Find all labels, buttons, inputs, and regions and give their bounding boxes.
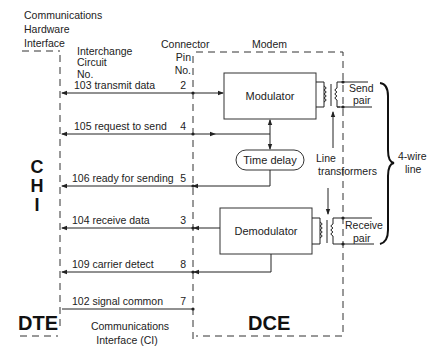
ci-label-line1: Communications: [91, 320, 169, 332]
circuit-109-carrier-detect: 109 carrier detect 8: [62, 254, 271, 274]
receive-pair-label-line2: pair: [353, 232, 371, 244]
pin-number: 4: [180, 120, 186, 132]
ci-label-line2: Interface (CI): [96, 334, 157, 346]
time-delay-label: Time delay: [243, 154, 297, 166]
circuit-label: 104 receive data: [72, 214, 150, 226]
connector-header-line1: Connector: [161, 38, 210, 50]
send-pair-label-line2: pair: [353, 94, 371, 106]
circuit-104-receive-data: 104 receive data 3: [62, 214, 220, 230]
line-transformers-label-line2: transformers: [318, 165, 377, 177]
chi-title-line1: Communications: [24, 9, 102, 21]
interchange-header-line2: Circuit: [77, 56, 107, 68]
dte-dce-interface-diagram: Communications Hardware Interface Interc…: [0, 0, 438, 364]
time-delay-block: Time delay: [236, 150, 304, 170]
chi-title-line2: Hardware: [24, 23, 70, 35]
chi-title-line3: Interface: [24, 37, 65, 49]
demodulator-label: Demodulator: [235, 225, 298, 237]
modulator-block: Modulator: [224, 73, 316, 119]
pin-number: 8: [180, 258, 186, 270]
chi-letter-c: C: [31, 157, 44, 177]
circuit-106-ready-for-sending: 106 ready for sending 5: [62, 170, 270, 188]
circuit-label: 103 transmit data: [74, 79, 155, 91]
pin-number: 5: [180, 172, 186, 184]
connector-header-line2: Pin: [176, 51, 191, 63]
chi-letter-h: H: [31, 176, 44, 196]
modulator-label: Modulator: [246, 90, 295, 102]
circuit-105-request-to-send: 105 request to send 4: [62, 120, 270, 149]
pin-number: 7: [180, 295, 186, 307]
demodulator-block: Demodulator: [220, 208, 312, 254]
dte-label: DTE: [18, 312, 58, 334]
connector-header-line3: No.: [175, 64, 191, 76]
pin-number: 2: [180, 79, 186, 91]
circuit-label: 106 ready for sending: [72, 172, 174, 184]
circuit-label: 105 request to send: [74, 120, 167, 132]
dce-label: DCE: [248, 312, 290, 334]
circuit-103-transmit-data: 103 transmit data 2: [62, 79, 223, 95]
modem-header: Modem: [252, 38, 287, 50]
circuit-102-signal-common: 102 signal common 7: [62, 295, 195, 311]
send-pair-label-line1: Send: [349, 82, 374, 94]
circuit-label: 109 carrier detect: [72, 258, 154, 270]
receive-pair-label-line1: Receive: [345, 219, 383, 231]
circuit-label: 102 signal common: [72, 295, 163, 307]
four-wire-label-line1: 4-wire: [398, 150, 427, 162]
pin-number: 3: [180, 214, 186, 226]
line-transformers-label-line1: Line: [316, 152, 336, 164]
four-wire-label-line2: line: [405, 163, 422, 175]
chi-letter-i: I: [34, 195, 39, 215]
